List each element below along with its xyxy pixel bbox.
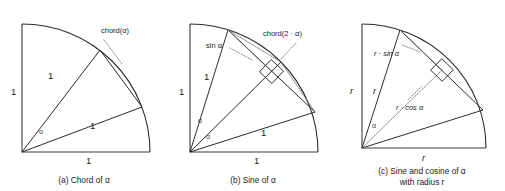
radius-upper-line <box>22 50 100 152</box>
sine-dotted-line <box>400 30 442 70</box>
label-radius-upper: 1 <box>48 70 53 81</box>
panel-c-svg: r r r r · sin α r · cos α α (c) Sine and… <box>338 0 505 191</box>
label-angle-lower-alpha: α <box>206 133 210 140</box>
label-radius-upper: 1 <box>204 71 209 82</box>
label-horizontal-side: 1 <box>86 155 91 166</box>
label-angle-alpha: α <box>39 128 43 135</box>
radius-upper-line <box>362 30 400 148</box>
panel-sine-cosine-radius-r: r r r r · sin α r · cos α α (c) Sine and… <box>338 0 505 191</box>
cosine-leader-line <box>408 86 422 100</box>
caption-panel-b: (b) Sine of α <box>230 175 276 185</box>
panel-chord-of-alpha: 1 1 1 1 chord(α) α (a) Chord of α <box>0 0 168 191</box>
panel-a-svg: 1 1 1 1 chord(α) α (a) Chord of α <box>0 0 168 191</box>
caption-panel-a: (a) Chord of α <box>58 175 110 185</box>
panel-sine-of-alpha: 1 1 1 1 sin α chord(2 · α) α α (b) Sine … <box>168 0 338 191</box>
label-sine: sin α <box>206 41 223 50</box>
radius-lower-line <box>190 112 315 152</box>
dotted-lower-edge <box>281 62 315 112</box>
chord-leader-line <box>280 43 296 60</box>
caption-panel-c-line2: with radius r <box>399 177 445 187</box>
caption-panel-c-line1: (c) Sine and cosine of α <box>378 166 466 176</box>
radius-lower-line <box>362 110 483 148</box>
label-angle-upper-alpha: α <box>198 117 202 124</box>
chord-leader-line <box>104 40 122 64</box>
label-radius-lower: 1 <box>90 120 95 131</box>
label-radius: r <box>373 85 377 96</box>
label-sine: r · sin α <box>374 49 400 58</box>
chord-line <box>100 50 142 107</box>
label-chord: chord(α) <box>101 26 130 35</box>
figure-container: 1 1 1 1 chord(α) α (a) Chord of α <box>0 0 505 191</box>
label-horizontal-side: 1 <box>254 155 259 166</box>
label-vertical-side: r <box>350 85 354 96</box>
label-chord: chord(2 · α) <box>263 29 302 38</box>
label-horizontal-side: r <box>422 152 426 163</box>
label-radius-lower: 1 <box>261 127 266 138</box>
panel-b-svg: 1 1 1 1 sin α chord(2 · α) α α (b) Sine … <box>168 0 338 191</box>
label-cosine: r · cos α <box>396 103 424 112</box>
label-vertical-side: 1 <box>11 86 16 97</box>
label-vertical-side: 1 <box>179 86 184 97</box>
label-angle-alpha: α <box>372 122 376 129</box>
